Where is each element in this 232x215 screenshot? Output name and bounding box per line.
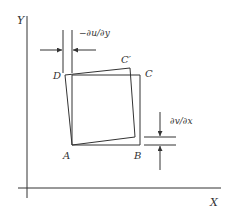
vertex-label-b: B [133, 150, 141, 161]
dim-v-label: ∂v/∂x [170, 116, 193, 126]
vertex-label-c-prime: C′ [121, 54, 132, 65]
dim-u-label: −∂u/∂y [79, 28, 111, 38]
vertex-label-c: C [145, 68, 153, 79]
original-square [72, 75, 140, 145]
shear-strain-diagram: Y X A B C D C′ −∂u/∂y ∂v/∂x [0, 0, 232, 215]
deformed-element [65, 68, 135, 145]
y-axis-label: Y [17, 14, 26, 27]
x-axis-label: X [209, 196, 219, 209]
vertex-label-d: D [52, 70, 61, 81]
vertex-label-a: A [62, 150, 70, 161]
